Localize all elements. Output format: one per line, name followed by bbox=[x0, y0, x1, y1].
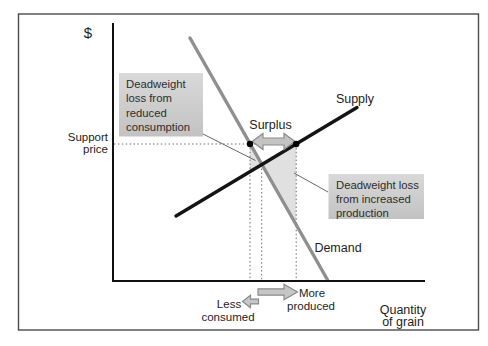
y-axis-label: $ bbox=[84, 24, 93, 41]
less-consumed-label-line2: consumed bbox=[201, 311, 254, 323]
more-produced-label-line1: More bbox=[299, 287, 325, 299]
support-price-label-line1: Support bbox=[68, 131, 109, 143]
surplus-label: Surplus bbox=[249, 118, 291, 132]
dwl-consumption-box-line1: Deadweight bbox=[126, 78, 187, 90]
dwl-consumption-box-line2: loss from bbox=[126, 92, 172, 104]
x-axis-label-line2: of grain bbox=[382, 315, 424, 329]
dwl-production-box-line3: production bbox=[336, 207, 389, 219]
dwl-consumption-box-line4: consumption bbox=[126, 121, 190, 133]
figure-canvas: Deadweight loss from reduced consumption… bbox=[0, 0, 488, 346]
figure: Deadweight loss from reduced consumption… bbox=[0, 0, 488, 346]
supply-label: Supply bbox=[336, 92, 375, 106]
dwl-production-box-line1: Deadweight loss bbox=[336, 179, 419, 191]
demand-support-point bbox=[247, 141, 253, 147]
more-produced-label-line2: produced bbox=[287, 300, 335, 312]
demand-label: Demand bbox=[314, 241, 361, 255]
dwl-production-box-line2: from increased bbox=[336, 193, 411, 205]
dwl-consumption-box-line3: reduced bbox=[126, 107, 167, 119]
supply-support-point bbox=[293, 141, 299, 147]
less-consumed-label-line1: Less bbox=[217, 298, 242, 310]
support-price-label-line2: price bbox=[83, 143, 108, 155]
